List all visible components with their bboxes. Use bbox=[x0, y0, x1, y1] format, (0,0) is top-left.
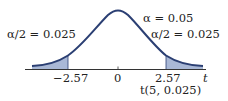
tick-label-zero: 0 bbox=[114, 73, 121, 85]
tick-label-neg: −2.57 bbox=[53, 73, 88, 85]
alpha-label: α = 0.05 bbox=[143, 13, 193, 25]
critical-value-label: t(5, 0.025) bbox=[140, 85, 201, 97]
right-tail-label: α/2 = 0.025 bbox=[151, 29, 220, 41]
axis-variable-label: t bbox=[203, 73, 208, 85]
left-tail-label: α/2 = 0.025 bbox=[7, 29, 76, 41]
